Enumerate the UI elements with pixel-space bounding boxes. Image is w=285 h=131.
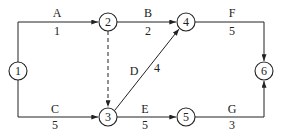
node-4-label: 4 xyxy=(183,15,189,29)
activity-b-name: B xyxy=(144,6,152,20)
activity-g-duration: 3 xyxy=(229,118,235,131)
node-2-label: 2 xyxy=(105,15,111,29)
activity-d-duration: 4 xyxy=(154,61,160,75)
node-3-label: 3 xyxy=(105,110,111,124)
activity-f-name: F xyxy=(229,6,236,20)
activity-a-name: A xyxy=(53,6,62,20)
activity-a-duration: 1 xyxy=(54,24,60,38)
activity-b-duration: 2 xyxy=(145,24,151,38)
node-1: 1 xyxy=(9,62,27,80)
node-6: 6 xyxy=(255,62,273,80)
activity-f-duration: 5 xyxy=(229,24,235,38)
network-diagram: A 1 B 2 C 5 D 4 E 5 F 5 G 3 1 2 3 4 5 xyxy=(0,0,285,131)
activity-e-duration: 5 xyxy=(142,118,148,131)
activity-g-name: G xyxy=(228,102,237,116)
node-5-label: 5 xyxy=(183,110,189,124)
node-6-label: 6 xyxy=(261,64,267,78)
activity-d-arrow xyxy=(115,29,179,110)
node-2: 2 xyxy=(99,13,117,31)
node-1-label: 1 xyxy=(15,64,21,78)
activity-c-duration: 5 xyxy=(52,118,58,131)
activity-e-name: E xyxy=(141,102,148,116)
node-5: 5 xyxy=(177,108,195,126)
activity-d-name: D xyxy=(130,64,139,78)
node-3: 3 xyxy=(99,108,117,126)
activity-c-name: C xyxy=(51,102,59,116)
node-4: 4 xyxy=(177,13,195,31)
